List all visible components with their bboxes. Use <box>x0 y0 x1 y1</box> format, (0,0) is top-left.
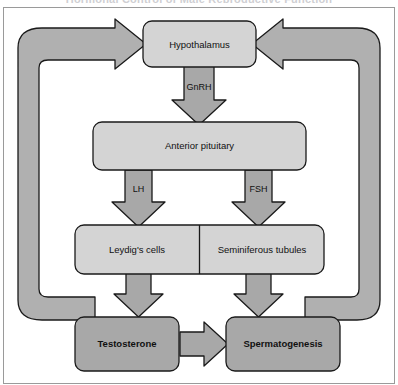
node-label-testosterone: Testosterone <box>98 338 157 349</box>
arrow-label-lh: LH <box>133 184 145 194</box>
figure-root: Hormonal Control of Male Reproductive Fu… <box>0 0 398 385</box>
arrow-label-gnrh: GnRH <box>186 82 211 92</box>
node-label-hypothalamus: Hypothalamus <box>169 39 230 50</box>
arrow-label-fsh: FSH <box>250 184 268 194</box>
node-label-anterior-pituitary: Anterior pituitary <box>165 140 234 151</box>
node-label-leydigs-cells: Leydig's cells <box>109 244 165 255</box>
node-label-seminiferous-tubules: Seminiferous tubules <box>218 244 307 255</box>
node-label-spermatogenesis: Spermatogenesis <box>243 338 322 349</box>
hormonal-control-diagram: GnRH LH FSH Hypothalamus Anterior pituit… <box>0 0 398 385</box>
